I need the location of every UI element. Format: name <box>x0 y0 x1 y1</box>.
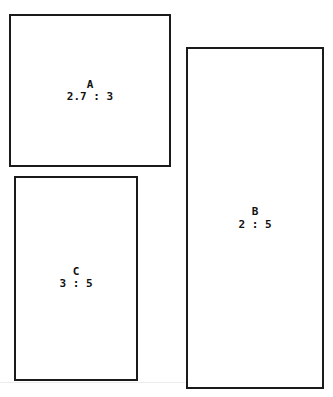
rectangle-b-name: B <box>188 206 322 218</box>
faint-guideline <box>0 382 185 383</box>
rectangle-a: A 2.7 : 3 <box>9 14 171 167</box>
rectangle-a-ratio: 2.7 : 3 <box>11 91 169 103</box>
rectangle-c-ratio: 3 : 5 <box>16 278 136 290</box>
rectangle-c: C 3 : 5 <box>14 176 138 381</box>
rectangle-b: B 2 : 5 <box>186 47 324 389</box>
rectangle-b-ratio: 2 : 5 <box>188 219 322 231</box>
